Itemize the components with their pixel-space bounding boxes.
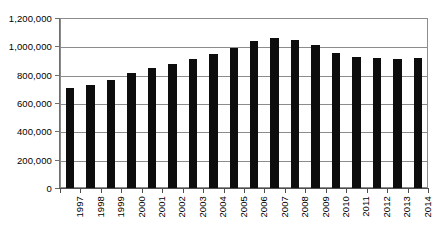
x-tick-label: 1998 xyxy=(95,196,106,218)
bar xyxy=(332,53,341,188)
x-tick-mark xyxy=(60,189,61,193)
y-tick-mark xyxy=(55,188,59,189)
bar-chart: 0200,000400,000600,000800,0001,000,0001,… xyxy=(0,0,437,237)
bar xyxy=(168,64,177,188)
bar xyxy=(230,48,239,188)
bars-layer xyxy=(60,18,428,188)
x-tick-mark xyxy=(387,189,388,193)
bar xyxy=(414,58,423,188)
y-tick-label: 1,200,000 xyxy=(9,13,52,24)
x-tick-mark xyxy=(244,189,245,193)
y-tick-mark xyxy=(55,160,59,161)
x-tick-mark xyxy=(203,189,204,193)
bar xyxy=(393,59,402,188)
x-tick-mark xyxy=(367,189,368,193)
x-tick-mark xyxy=(326,189,327,193)
y-tick-mark xyxy=(55,75,59,76)
x-tick-mark xyxy=(142,189,143,193)
y-tick-label: 0 xyxy=(47,183,52,194)
bar xyxy=(66,88,75,188)
y-tick-mark xyxy=(55,18,59,19)
x-tick-label: 2008 xyxy=(299,196,310,218)
x-tick-label: 2013 xyxy=(401,196,412,218)
bar xyxy=(311,45,320,188)
x-tick-label: 2001 xyxy=(156,196,167,218)
x-tick-label: 1999 xyxy=(115,196,126,218)
x-tick-mark xyxy=(264,189,265,193)
x-tick-mark xyxy=(101,189,102,193)
bar xyxy=(189,59,198,188)
x-tick-label: 2009 xyxy=(320,196,331,218)
bar xyxy=(148,68,157,188)
bar xyxy=(250,41,259,188)
x-tick-mark xyxy=(428,189,429,193)
bar xyxy=(107,80,116,188)
x-tick-mark xyxy=(346,189,347,193)
bar xyxy=(270,38,279,188)
x-tick-label: 2000 xyxy=(136,196,147,218)
x-tick-label: 2002 xyxy=(176,196,187,218)
x-tick-label: 2004 xyxy=(217,196,228,218)
x-tick-mark xyxy=(305,189,306,193)
y-tick-label: 1,000,000 xyxy=(9,41,52,52)
bar xyxy=(373,58,382,188)
bar xyxy=(291,40,300,188)
x-tick-label: 2006 xyxy=(258,196,269,218)
y-tick-mark xyxy=(55,103,59,104)
y-tick-label: 200,000 xyxy=(17,154,52,165)
y-tick-mark xyxy=(55,46,59,47)
y-tick-label: 600,000 xyxy=(17,98,52,109)
y-tick-label: 800,000 xyxy=(17,69,52,80)
x-tick-label: 1997 xyxy=(74,196,85,218)
y-tick-mark xyxy=(55,131,59,132)
bar xyxy=(352,57,361,188)
x-tick-label: 2014 xyxy=(422,196,433,218)
x-tick-label: 2005 xyxy=(238,196,249,218)
bar xyxy=(209,54,218,188)
y-tick-label: 400,000 xyxy=(17,126,52,137)
x-tick-mark xyxy=(285,189,286,193)
x-tick-mark xyxy=(408,189,409,193)
x-tick-mark xyxy=(162,189,163,193)
x-tick-label: 2010 xyxy=(340,196,351,218)
x-tick-mark xyxy=(121,189,122,193)
x-tick-label: 2012 xyxy=(381,196,392,218)
bar xyxy=(127,73,136,188)
bar xyxy=(86,85,95,188)
x-tick-label: 2011 xyxy=(360,196,371,217)
x-tick-mark xyxy=(183,189,184,193)
x-tick-mark xyxy=(224,189,225,193)
x-tick-label: 2007 xyxy=(279,196,290,218)
y-axis-labels: 0200,000400,000600,000800,0001,000,0001,… xyxy=(0,0,57,237)
x-tick-label: 2003 xyxy=(197,196,208,218)
x-tick-mark xyxy=(80,189,81,193)
